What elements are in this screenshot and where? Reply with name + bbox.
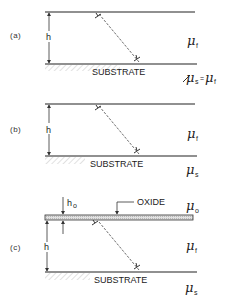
substrate-modulus-label: μ s = μ f — [183, 70, 216, 85]
dislocation-symbol-bottom — [134, 263, 140, 269]
substrate-modulus-label: μ s — [185, 280, 198, 296]
film-modulus-label: μ f — [187, 126, 198, 142]
svg-text:μ: μ — [186, 162, 194, 177]
svg-text:μ: μ — [187, 126, 195, 141]
dislocation-line — [99, 106, 139, 154]
svg-text:h: h — [67, 198, 72, 208]
oxide-modulus-label: μ o — [186, 198, 199, 214]
thickness-label: h — [44, 242, 49, 252]
panel-b-label: (b) — [10, 125, 21, 134]
svg-text:f: f — [214, 78, 216, 85]
svg-text:s: s — [195, 171, 199, 178]
dislocation-film-diagram: (a) h SUBSTRATE μ f μ s = — [0, 0, 227, 301]
dislocation-symbol-top — [92, 220, 98, 225]
svg-text:s: s — [194, 289, 198, 296]
svg-text:f: f — [196, 42, 198, 49]
oxide-label: OXIDE — [137, 197, 165, 207]
oxide-leader — [115, 202, 134, 215]
thickness-label: h — [46, 32, 51, 42]
svg-text:μ: μ — [185, 280, 193, 295]
thickness-label: h — [46, 125, 51, 135]
dislocation-line — [99, 222, 139, 270]
oxide-thickness-label: h o — [67, 198, 77, 209]
panel-b: (b) h SUBSTRATE μ f μ s — [10, 104, 199, 178]
svg-text:o: o — [73, 202, 77, 209]
svg-text:=: = — [200, 75, 204, 82]
substrate-label: SUBSTRATE — [94, 275, 147, 285]
film-modulus-label: μ f — [187, 33, 198, 49]
svg-text:μ: μ — [186, 198, 194, 213]
substrate-label: SUBSTRATE — [90, 159, 143, 169]
substrate-label: SUBSTRATE — [92, 67, 145, 77]
panel-a: (a) h SUBSTRATE μ f μ s = — [10, 12, 216, 85]
dislocation-symbol-bottom — [134, 147, 140, 153]
svg-text:s: s — [195, 78, 199, 85]
panel-c: (c) h o OXIDE h — [10, 197, 199, 296]
substrate-modulus-label: μ s — [186, 162, 199, 178]
svg-text:o: o — [195, 207, 199, 214]
oxide-layer — [45, 215, 193, 220]
svg-text:μ: μ — [187, 33, 195, 48]
svg-text:f: f — [196, 135, 198, 142]
substrate-hatch — [45, 273, 90, 280]
panel-c-label: (c) — [10, 243, 21, 252]
substrate-hatch — [45, 157, 85, 164]
svg-text:μ: μ — [186, 238, 194, 253]
svg-text:μ: μ — [186, 70, 194, 85]
dislocation-line — [99, 14, 139, 62]
film-modulus-label: μ f — [186, 238, 197, 254]
svg-text:f: f — [195, 247, 197, 254]
panel-a-label: (a) — [10, 31, 21, 40]
svg-text:μ: μ — [205, 70, 213, 85]
dislocation-symbol-bottom — [134, 55, 140, 61]
